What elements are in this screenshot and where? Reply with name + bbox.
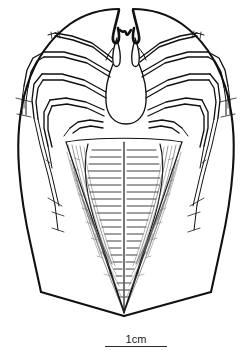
specimen-illustration: [0, 0, 248, 359]
chelicerae: [113, 10, 140, 67]
scale-bar-label: 1cm: [104, 333, 168, 345]
leg-left-3: [32, 74, 106, 232]
leg-right-5-pedipalp: [149, 120, 188, 136]
figure-root: 1cm: [0, 0, 248, 359]
leg-left-2: [16, 52, 110, 117]
scale-bar: 1cm: [104, 333, 168, 347]
scale-bar-rule: [105, 346, 167, 347]
leg-left-5-pedipalp: [64, 120, 103, 136]
sternum-plate: [106, 48, 146, 124]
leg-right-2: [142, 52, 236, 117]
striated-abdomen: [66, 138, 182, 313]
